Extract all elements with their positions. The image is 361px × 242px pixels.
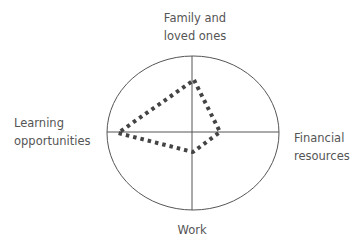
label-work: Work	[160, 221, 224, 239]
label-financial: Financial resources	[294, 129, 350, 165]
rating-polygon	[118, 80, 220, 152]
label-family: Family and loved ones	[148, 9, 242, 45]
label-learning: Learning opportunities	[14, 114, 90, 150]
outer-ellipse	[107, 56, 279, 210]
